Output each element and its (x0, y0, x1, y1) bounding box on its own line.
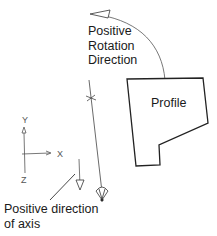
axis-cone-icon (96, 187, 108, 201)
rotation-label-line-1: Positive (88, 24, 137, 39)
axis-direction-label: Positive direction of axis (4, 202, 99, 231)
rotation-axis-line (89, 80, 102, 192)
profile-shape (127, 78, 208, 166)
triad-x-label: X (57, 149, 63, 159)
triad-z-label: Z (21, 175, 27, 185)
rotation-arrow-head-icon (90, 10, 110, 18)
coordinate-triad (22, 127, 51, 173)
rotation-label: Positive Rotation Direction (88, 24, 137, 68)
triad-y-label: Y (22, 115, 28, 125)
rotation-label-line-3: Direction (88, 53, 137, 68)
axis-direction-label-line-2: of axis (4, 217, 99, 232)
leader-line (50, 174, 75, 200)
direction-arrow-head-icon (76, 180, 84, 190)
rotation-label-line-2: Rotation (88, 39, 137, 54)
axis-direction-label-line-1: Positive direction (4, 202, 99, 217)
diagram-canvas: Positive Rotation Direction Profile Posi… (0, 0, 217, 236)
profile-label: Profile (151, 96, 186, 110)
